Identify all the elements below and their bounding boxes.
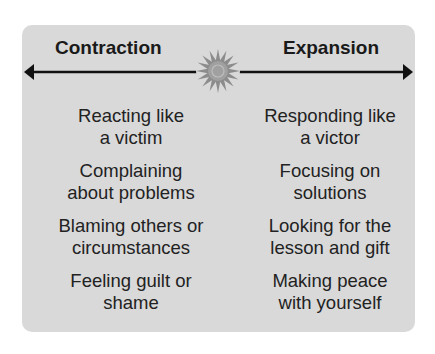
list-item: Complaining about problems (31, 160, 231, 204)
right-arrowhead-icon (403, 64, 413, 80)
sun-icon (196, 49, 240, 93)
list-item: Feeling guilt or shame (31, 270, 231, 314)
list-item: Responding like a victor (230, 105, 430, 149)
list-item: Reacting like a victim (31, 105, 231, 149)
contraction-list: Reacting like a victim Complaining about… (31, 105, 231, 325)
list-item: Blaming others or circumstances (31, 215, 231, 259)
diagram-panel: Contraction Expansion (22, 25, 415, 332)
expansion-list: Responding like a victor Focusing on sol… (230, 105, 430, 325)
double-arrow-axis (22, 25, 415, 115)
left-arrowhead-icon (24, 64, 34, 80)
list-item: Focusing on solutions (230, 160, 430, 204)
list-item: Making peace with yourself (230, 270, 430, 314)
list-item: Looking for the lesson and gift (230, 215, 430, 259)
